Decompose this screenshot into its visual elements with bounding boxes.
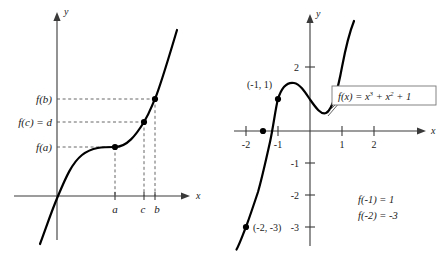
- left-ticklabel-b: b: [154, 203, 160, 215]
- right-yticklabel-neg2: -2: [291, 190, 299, 201]
- right-yticklabel-neg3: -3: [291, 222, 299, 233]
- left-point-c: [141, 119, 147, 125]
- right-xticklabel-neg2: -2: [242, 139, 250, 150]
- right-yticklabel-neg1: -1: [291, 158, 299, 169]
- left-label-fc-equals-d: f(c) = d: [18, 116, 52, 129]
- right-panel-svg: y x -2 -1 1 2 2 -1 -2 -3: [222, 0, 444, 256]
- left-x-axis-label: x: [195, 190, 201, 201]
- value-note-f-neg1: f(-1) = 1: [358, 194, 394, 206]
- right-label-point-neg2-neg3: (-2, -3): [253, 222, 281, 234]
- left-y-axis-label: y: [63, 6, 69, 17]
- left-point-b: [152, 96, 158, 102]
- left-panel-intermediate-value-theorem: y x f(b) f(c) = d f(a): [0, 0, 222, 256]
- left-ticklabel-c: c: [141, 203, 146, 215]
- right-curve: [237, 21, 355, 250]
- left-label-fb: f(b): [36, 93, 52, 106]
- left-ticklabel-a: a: [112, 203, 118, 215]
- figure-root: y x f(b) f(c) = d f(a): [0, 0, 444, 256]
- equation-suffix: + 1: [394, 91, 412, 102]
- equation-text: f(x) = x3 + x2 + 1: [338, 90, 411, 103]
- left-point-a: [112, 144, 118, 150]
- right-x-axis-label: x: [430, 125, 436, 136]
- left-x-axis-arrowhead: [181, 192, 190, 199]
- right-xticklabel-2: 2: [372, 139, 377, 150]
- equation-mid: + x: [373, 91, 390, 102]
- right-y-axis-label: y: [315, 8, 321, 19]
- right-point-root: [260, 128, 266, 134]
- left-y-axis-arrowhead: [53, 12, 60, 21]
- right-xticklabel-neg1: -1: [274, 139, 282, 150]
- right-label-point-neg1-1: (-1, 1): [247, 79, 272, 91]
- right-point-neg1-1: [275, 96, 281, 102]
- left-label-fa: f(a): [36, 141, 52, 154]
- right-panel-cubic-example: y x -2 -1 1 2 2 -1 -2 -3: [222, 0, 444, 256]
- right-xticklabel-1: 1: [340, 139, 345, 150]
- right-yticklabel-2: 2: [294, 62, 299, 73]
- value-note-f-neg2: f(-2) = -3: [358, 210, 398, 222]
- right-y-axis-arrowhead: [306, 14, 313, 23]
- left-panel-svg: y x f(b) f(c) = d f(a): [0, 0, 222, 256]
- equation-prefix: f(x) = x: [338, 91, 370, 103]
- right-point-neg2-neg3: [243, 224, 249, 230]
- right-x-axis-arrowhead: [417, 127, 426, 134]
